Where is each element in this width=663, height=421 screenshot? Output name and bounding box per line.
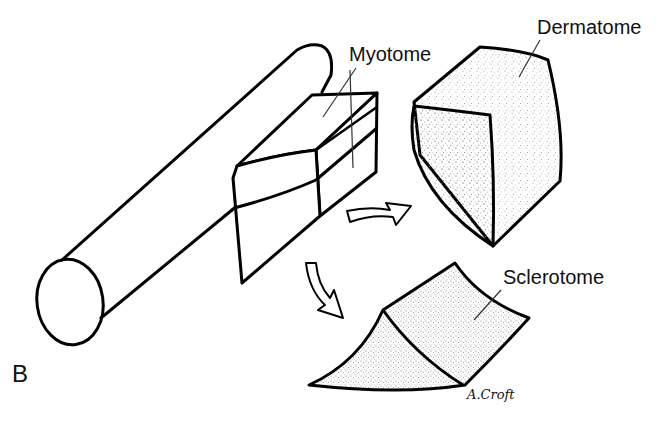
somite-differentiation-diagram [0,0,663,421]
arrow-to-dermatome [347,203,411,225]
artist-signature: A.Croft [467,388,515,401]
myotome-label: Myotome [349,44,431,64]
somite-block [233,93,377,283]
arrow-to-sclerotome [306,263,343,318]
sclerotome-label: Sclerotome [503,267,604,287]
dermatome-label: Dermatome [537,17,641,37]
dermatome-piece [412,47,561,246]
panel-label: B [12,362,28,386]
sclerotome-piece [309,263,529,390]
